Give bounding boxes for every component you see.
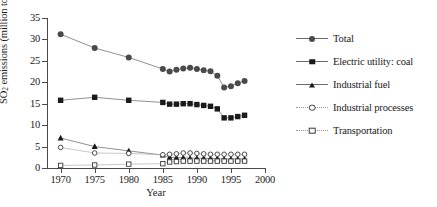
- legend-item-industrial-processes[interactable]: Industrial processes: [296, 96, 436, 119]
- legend-item-total[interactable]: Total: [296, 27, 436, 50]
- legend-label: Total: [333, 33, 354, 44]
- y-tick-label: 15: [30, 98, 40, 109]
- x-tick: [163, 168, 164, 173]
- y-tick-label: 35: [30, 12, 40, 23]
- x-tick: [61, 168, 62, 173]
- legend-sample: [296, 125, 328, 137]
- y-tick-label: 0: [35, 162, 40, 173]
- legend-item-industrial-fuel[interactable]: Industrial fuel: [296, 73, 436, 96]
- x-tick-label: 1975: [85, 174, 105, 185]
- x-tick: [95, 168, 96, 173]
- x-tick: [231, 168, 232, 173]
- plot-area: 05101520253035 1970197519801985199019952…: [47, 18, 265, 168]
- y-tick: [42, 125, 47, 126]
- y-axis-label: SO2 emissions (million tons/year): [0, 0, 10, 104]
- x-tick: [265, 168, 266, 173]
- y-axis-label-suffix: emissions (million tons/year): [0, 0, 9, 87]
- y-tick: [42, 168, 47, 169]
- y-axis-label-subscript: 2: [1, 87, 10, 91]
- legend-label: Transportation: [333, 125, 392, 136]
- y-axis-label-prefix: SO: [0, 91, 9, 104]
- legend-label: Industrial processes: [333, 102, 413, 113]
- x-tick: [197, 168, 198, 173]
- y-tick-label: 25: [30, 55, 40, 66]
- legend-sample: [296, 79, 328, 91]
- filled-circle-icon: [309, 36, 315, 42]
- legend-item-transportation[interactable]: Transportation: [296, 119, 436, 142]
- legend-sample: [296, 33, 328, 45]
- legend-sample: [296, 102, 328, 114]
- x-tick-label: 1980: [119, 174, 139, 185]
- so2-emissions-chart: 05101520253035 1970197519801985199019952…: [0, 0, 437, 207]
- legend-label: Electric utility: coal: [333, 56, 413, 67]
- x-axis-line: [47, 168, 265, 169]
- y-tick: [42, 61, 47, 62]
- y-tick-label: 10: [30, 119, 40, 130]
- x-tick-label: 1995: [221, 174, 241, 185]
- legend-sample: [296, 56, 328, 68]
- y-tick-label: 20: [30, 77, 40, 88]
- x-tick: [129, 168, 130, 173]
- x-tick-label: 1990: [187, 174, 207, 185]
- filled-triangle-icon: [309, 82, 315, 87]
- y-tick: [42, 39, 47, 40]
- x-axis-label: Year: [146, 187, 165, 198]
- y-tick-label: 30: [30, 34, 40, 45]
- y-tick: [42, 147, 47, 148]
- legend-label: Industrial fuel: [333, 79, 390, 90]
- y-tick-label: 5: [35, 141, 40, 152]
- x-tick-label: 2000: [255, 174, 275, 185]
- open-square-icon: [309, 127, 316, 134]
- y-tick: [42, 18, 47, 19]
- y-tick: [42, 104, 47, 105]
- chart-legend: TotalElectric utility: coalIndustrial fu…: [296, 27, 436, 142]
- open-circle-icon: [309, 104, 316, 111]
- legend-item-electric-utility-coal[interactable]: Electric utility: coal: [296, 50, 436, 73]
- x-tick-label: 1970: [51, 174, 71, 185]
- filled-square-icon: [309, 59, 315, 65]
- y-tick: [42, 82, 47, 83]
- x-tick-label: 1985: [153, 174, 173, 185]
